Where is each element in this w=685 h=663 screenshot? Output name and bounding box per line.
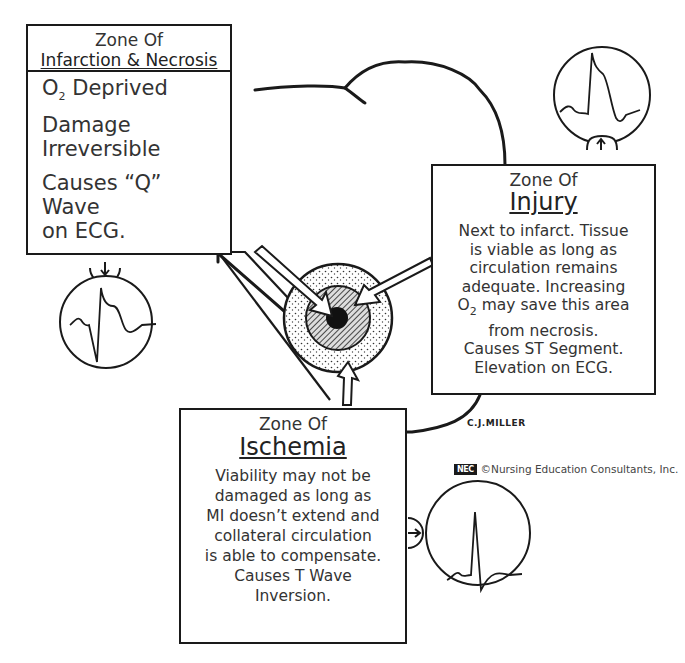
injury-heading: Zone Of [437, 170, 650, 190]
infarction-description: O2 Deprived Damage Irreversible Causes “… [34, 76, 224, 243]
ecg-q-wave [60, 262, 156, 368]
ischemia-description: Viability may not be damaged as long as … [185, 466, 401, 606]
zone-ischemia-box: Zone Of Ischemia Viability may not be da… [179, 408, 407, 644]
nec-logo: NEC [454, 464, 477, 475]
ischemia-heading: Zone Of [185, 414, 401, 434]
artist-credit: C.J.MILLER [467, 418, 526, 428]
injury-description: Next to infarct. Tissue is viable as lon… [437, 222, 650, 377]
injury-title: Injury [437, 190, 650, 214]
ecg-st-elevation [554, 47, 650, 150]
infarction-heading: Zone Of [34, 30, 224, 50]
ecg-t-inversion [408, 481, 530, 590]
zone-infarction-box: Zone Of Infarction & Necrosis O2 Deprive… [26, 24, 232, 255]
infarction-title: Infarction & Necrosis [34, 50, 224, 70]
zone-injury-box: Zone Of Injury Next to infarct. Tissue i… [431, 164, 656, 395]
copyright-text: ©Nursing Education Consultants, Inc. [481, 463, 679, 475]
copyright-notice: NEC ©Nursing Education Consultants, Inc. [454, 463, 678, 475]
ischemia-title: Ischemia [185, 434, 401, 460]
